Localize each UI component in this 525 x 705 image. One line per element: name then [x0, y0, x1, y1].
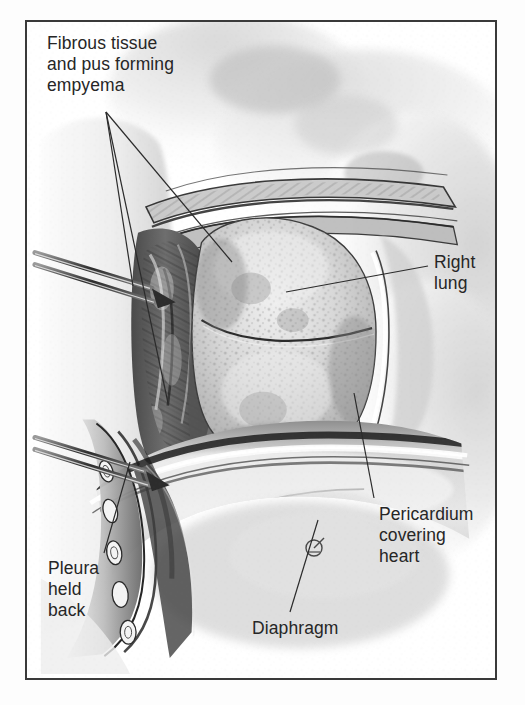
label-fibrous-tissue-pus-empyema: Fibrous tissue and pus forming empyema	[47, 33, 174, 96]
label-right-lung: Right lung	[434, 252, 475, 294]
artist-signature	[302, 534, 328, 560]
label-pericardium-covering-heart: Pericardium covering heart	[379, 504, 473, 567]
figure-container: Fibrous tissue and pus forming empyema R…	[0, 0, 525, 705]
label-diaphragm: Diaphragm	[252, 618, 339, 639]
label-pleura-held-back: Pleura held back	[48, 558, 99, 621]
